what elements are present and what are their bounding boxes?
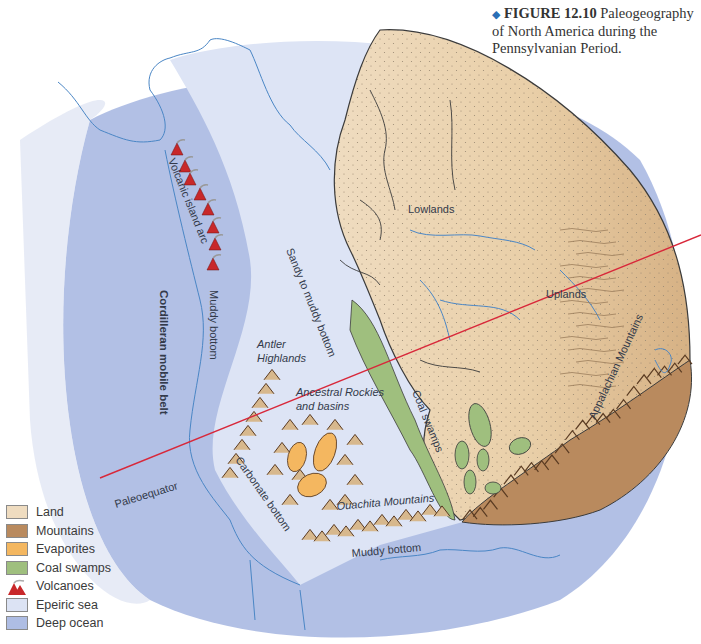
legend-label: Coal swamps: [36, 561, 111, 575]
label-lowlands: Lowlands: [408, 203, 455, 215]
label-muddy-bottom-west: Muddy bottom: [208, 290, 220, 360]
label-ancestral-2: and basins: [296, 400, 350, 412]
label-antler: Antler: [256, 338, 287, 350]
legend-item: Volcanoes: [6, 577, 111, 596]
land-swatch: [6, 505, 28, 519]
figure-number: FIGURE 12.10: [504, 5, 597, 21]
label-uplands: Uplands: [546, 288, 587, 300]
legend-label: Mountains: [36, 524, 94, 538]
legend-label: Land: [36, 505, 64, 519]
legend-item: Land: [6, 503, 111, 522]
legend-label: Epeiric sea: [36, 598, 98, 612]
coal-swamps-swatch: [6, 561, 28, 575]
legend-item: Mountains: [6, 522, 111, 541]
legend-label: Volcanoes: [36, 579, 94, 593]
deep-ocean-swatch: [6, 616, 28, 630]
figure-caption: ◆FIGURE 12.10 Paleogeography of North Am…: [492, 5, 701, 57]
legend-item: Coal swamps: [6, 559, 111, 578]
legend-item: Epeiric sea: [6, 596, 111, 615]
label-cordilleran: Cordilleran mobile belt: [158, 290, 170, 415]
volcano-icon: [6, 579, 28, 593]
legend-label: Deep ocean: [36, 616, 103, 630]
label-ancestral: Ancestral Rockies: [295, 386, 385, 398]
legend-item: Evaporites: [6, 540, 111, 559]
map-legend: LandMountainsEvaporitesCoal swampsVolcan…: [6, 503, 111, 633]
epeiric-sea-swatch: [6, 598, 28, 612]
evaporites-swatch: [6, 542, 28, 556]
label-antler-2: Highlands: [257, 352, 306, 364]
mountains-swatch: [6, 524, 28, 538]
legend-item: Deep ocean: [6, 614, 111, 633]
legend-label: Evaporites: [36, 542, 95, 556]
caption-marker-icon: ◆: [492, 8, 500, 20]
